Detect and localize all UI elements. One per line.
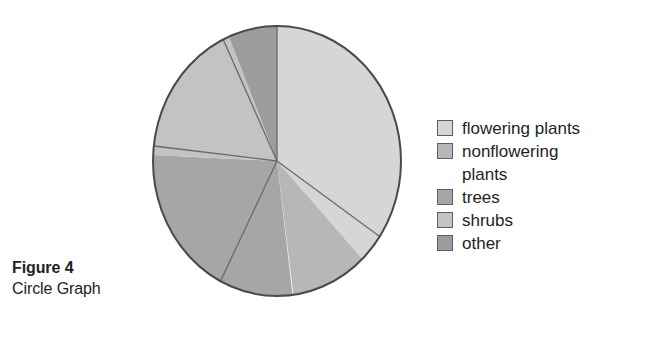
- legend-item-other: other: [437, 233, 642, 256]
- legend-item-nonflowering-plants: nonflowering: [437, 141, 642, 164]
- figure-caption-subtitle: Circle Graph: [12, 278, 182, 300]
- legend-item-nonflowering-plants-wrap: plants: [437, 164, 642, 187]
- figure-container: flowering plants nonflowering plants tre…: [0, 0, 647, 339]
- legend-swatch-flowering-plants-icon: [437, 120, 453, 136]
- legend-label-shrubs: shrubs: [462, 210, 513, 231]
- legend-swatch-nonflowering-plants-icon: [437, 143, 453, 159]
- legend-swatch-placeholder-icon: [437, 166, 453, 182]
- legend-item-shrubs: shrubs: [437, 210, 642, 233]
- legend-swatch-shrubs-icon: [437, 212, 453, 228]
- legend-label-flowering-plants: flowering plants: [462, 118, 580, 139]
- chart-legend: flowering plants nonflowering plants tre…: [437, 118, 642, 256]
- legend-item-flowering-plants: flowering plants: [437, 118, 642, 141]
- legend-label-other: other: [462, 233, 501, 254]
- legend-item-trees: trees: [437, 187, 642, 210]
- legend-swatch-trees-icon: [437, 189, 453, 205]
- clipped-title-fragment: [150, 0, 410, 5]
- legend-swatch-other-icon: [437, 235, 453, 251]
- figure-caption-title: Figure 4: [12, 258, 182, 278]
- legend-label-nonflowering-plants-line2: plants: [462, 164, 507, 185]
- figure-caption: Figure 4 Circle Graph: [12, 258, 182, 300]
- legend-label-nonflowering-plants: nonflowering: [462, 141, 558, 162]
- legend-label-trees: trees: [462, 187, 500, 208]
- circle-graph-svg: [145, 16, 413, 308]
- circle-graph: [145, 16, 413, 308]
